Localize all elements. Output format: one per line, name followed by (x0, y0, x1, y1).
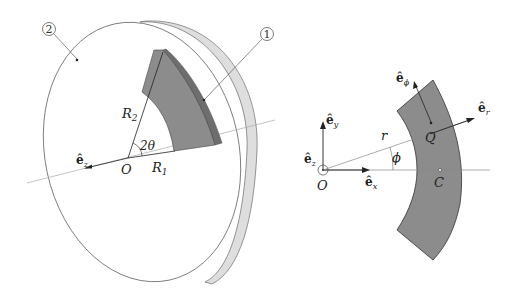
origin-label-left: O (121, 162, 132, 177)
figure: 2 1 R2 2θ O R1 êz (0, 0, 514, 302)
right-panel: êy êz O êx r ϕ Q C êr êϕ (304, 71, 491, 260)
ex-label: êx (365, 175, 378, 191)
ephi-arrowhead (413, 81, 418, 89)
callout-2-dot (76, 59, 79, 62)
callout-1-label: 1 (264, 28, 271, 41)
c-point (439, 169, 442, 172)
er-label: êr (478, 101, 491, 117)
phi-label: ϕ (392, 150, 401, 165)
q-point (430, 122, 433, 125)
q-label: Q (425, 130, 436, 145)
callout-2-leader (54, 34, 77, 59)
ex-arrowhead (362, 167, 370, 173)
ey-label: êy (326, 113, 339, 129)
r-label: r (381, 128, 388, 143)
c-label: C (434, 175, 444, 190)
angle-label: 2θ (139, 139, 156, 153)
callout-1-dot (203, 99, 206, 102)
left-panel: 2 1 R2 2θ O R1 êz (20, 4, 275, 301)
origin-label-right: O (317, 178, 328, 193)
er-arrowhead (466, 118, 475, 123)
callout-2-label: 2 (46, 23, 53, 36)
ez-label-right: êz (304, 152, 317, 168)
ephi-label: êϕ (396, 71, 410, 87)
